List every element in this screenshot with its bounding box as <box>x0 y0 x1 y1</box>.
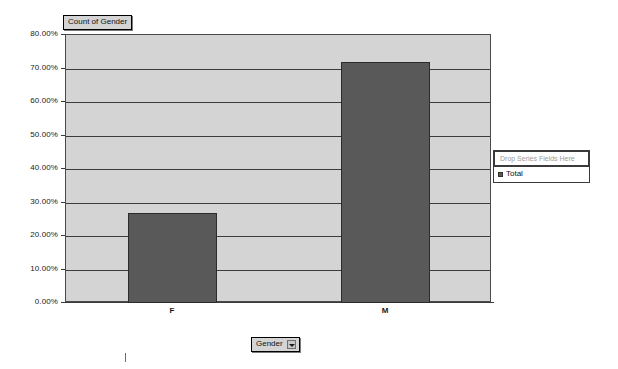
plot-area[interactable] <box>65 34 491 302</box>
y-axis-tick-label: 50.00% <box>2 130 58 139</box>
y-axis-tick-label: 10.00% <box>2 264 58 273</box>
drop-series-fields-dropzone[interactable]: Drop Series Fields Here <box>493 150 590 167</box>
pivot-chart: 0.00%10.00%20.00%30.00%40.00%50.00%60.00… <box>0 0 618 369</box>
legend-swatch-icon <box>498 172 503 177</box>
legend-item[interactable]: Total <box>498 169 585 179</box>
x-axis-category-label: F <box>152 306 192 316</box>
text-caret <box>125 353 126 362</box>
category-field-button[interactable]: Gender <box>251 337 300 352</box>
chart-title[interactable]: Count of Gender <box>63 15 132 30</box>
y-axis-tick-label: 40.00% <box>2 163 58 172</box>
y-axis-tick-label: 0.00% <box>2 297 58 306</box>
y-axis-tick: 0.00% <box>0 297 58 306</box>
bar[interactable] <box>128 213 217 303</box>
chevron-down-icon[interactable] <box>287 340 296 349</box>
y-axis-tick-label: 20.00% <box>2 230 58 239</box>
y-axis-tick: 40.00% <box>0 163 58 172</box>
y-axis-tick-label: 60.00% <box>2 96 58 105</box>
category-field-label: Gender <box>256 339 283 349</box>
legend[interactable]: Drop Series Fields Here Total <box>493 150 590 183</box>
y-axis-tick: 20.00% <box>0 230 58 239</box>
legend-entries: Total <box>493 167 590 183</box>
y-axis-tick-label: 30.00% <box>2 197 58 206</box>
bar[interactable] <box>341 62 430 303</box>
y-axis-tick: 80.00% <box>0 29 58 38</box>
legend-item-label: Total <box>506 169 523 179</box>
y-axis-tick: 50.00% <box>0 130 58 139</box>
x-axis-category-label: M <box>365 306 405 316</box>
y-axis-tick-label: 70.00% <box>2 63 58 72</box>
y-axis-tick: 60.00% <box>0 96 58 105</box>
y-axis-tick: 70.00% <box>0 63 58 72</box>
y-axis-tick: 10.00% <box>0 264 58 273</box>
y-axis-tick-label: 80.00% <box>2 29 58 38</box>
y-axis-tick: 30.00% <box>0 197 58 206</box>
